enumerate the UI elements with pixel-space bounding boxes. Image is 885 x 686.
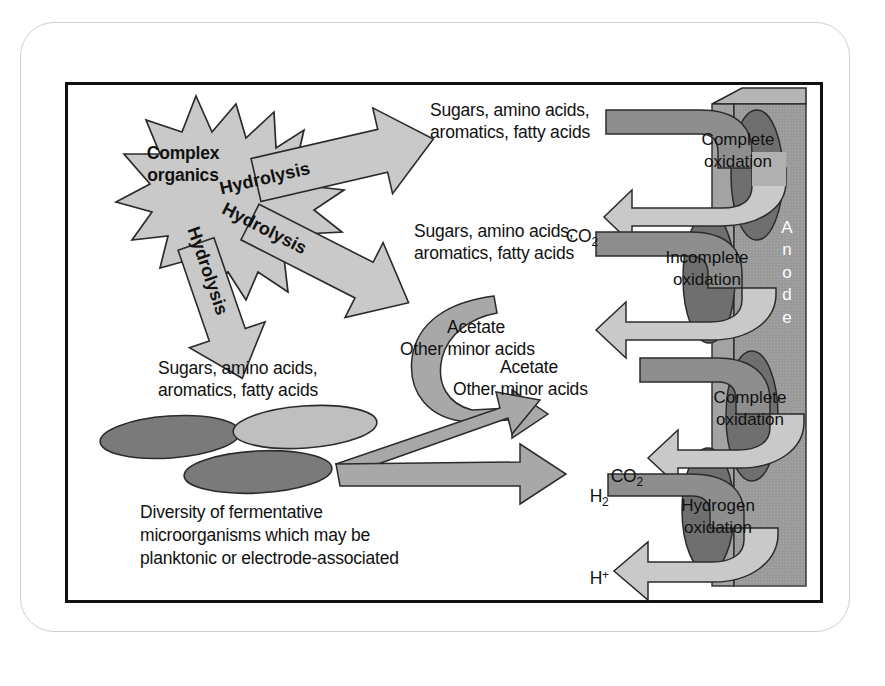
co2-upper-text: CO (566, 226, 592, 246)
h2-label: H2 (571, 465, 609, 529)
hydrogen-oxidation-line1: Hydrogen (660, 497, 776, 516)
cell-ellipse-light-right (232, 401, 379, 453)
complete-oxidation-1-line1: Complete (680, 131, 796, 150)
hplus-text: H (590, 568, 602, 588)
figure-canvas: Complex organics Hydrolysis Hydrolysis H… (0, 0, 885, 686)
h2-subscript: 2 (602, 495, 608, 509)
anode-letter-n: n (777, 239, 797, 261)
anode-vertical-label: A n o d e (777, 217, 797, 329)
substrate-left-line1: Sugars, amino acids, (158, 358, 317, 379)
complete-oxidation-1-line2: oxidation (680, 153, 796, 172)
caption-line1: Diversity of fermentative (140, 502, 323, 523)
co2-lower-text: CO (611, 466, 637, 486)
microorganism-group (99, 401, 379, 497)
co2-upper: CO2 (547, 205, 598, 269)
co2-lower-subscript: 2 (637, 475, 643, 489)
hplus-label: H+ (571, 547, 609, 609)
substrate-top-right-line2: aromatics, fatty acids (430, 122, 590, 143)
complete-oxidation-2-line1: Complete (692, 389, 808, 408)
h2-text: H (590, 486, 602, 506)
co2-upper-subscript: 2 (592, 235, 598, 249)
complete-oxidation-2-line2: oxidation (692, 411, 808, 430)
incomplete-oxidation-1-line2: oxidation (645, 271, 769, 290)
substrate-left-line2: aromatics, fatty acids (158, 380, 318, 401)
acetate-upper-line1: Acetate (447, 317, 505, 338)
cell-ellipse-dark-bottom (183, 447, 333, 497)
anode-letter-e: e (777, 307, 797, 329)
burst-label-line1: Complex (123, 143, 243, 164)
caption-line3: planktonic or electrode-associated (140, 548, 399, 569)
substrate-top-right-line1: Sugars, amino acids, (430, 100, 589, 121)
anode-letter-o: o (777, 262, 797, 284)
hplus-superscript: + (602, 568, 609, 582)
acetate-lower-line2: Other minor acids (453, 379, 588, 400)
hydrogen-oxidation-line2: oxidation (660, 519, 776, 538)
anode-letter-a: A (777, 217, 797, 239)
anode-letter-d: d (777, 284, 797, 306)
acetate-lower-line1: Acetate (500, 357, 558, 378)
anode-top-face (712, 88, 806, 104)
caption-line2: microorganisms which may be (140, 525, 370, 546)
incomplete-oxidation-1-line1: Incomplete (645, 249, 769, 268)
